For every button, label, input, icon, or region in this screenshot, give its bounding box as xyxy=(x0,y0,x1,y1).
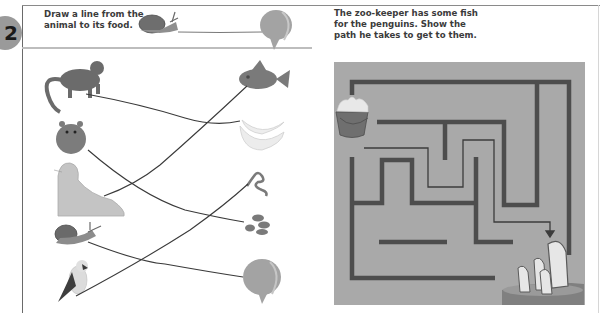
line-snail-lettuce xyxy=(88,242,243,277)
worksheet-canvas xyxy=(0,0,605,313)
example-lettuce-icon xyxy=(260,10,292,50)
monkey-icon xyxy=(47,61,104,112)
maze-board xyxy=(334,62,585,305)
banana-icon xyxy=(240,120,284,150)
line-monkey-bananas xyxy=(86,94,240,123)
matching-lines xyxy=(76,86,248,296)
worm-icon xyxy=(247,173,267,196)
example-snail-icon xyxy=(139,12,178,33)
fish-bucket-icon xyxy=(336,97,368,138)
hamster-icon xyxy=(56,121,86,154)
snail-icon xyxy=(55,222,101,244)
fish-icon xyxy=(239,60,290,89)
seeds-icon xyxy=(245,215,270,236)
bird-icon xyxy=(58,260,88,302)
lettuce-icon xyxy=(243,259,281,304)
example-line xyxy=(178,32,262,33)
